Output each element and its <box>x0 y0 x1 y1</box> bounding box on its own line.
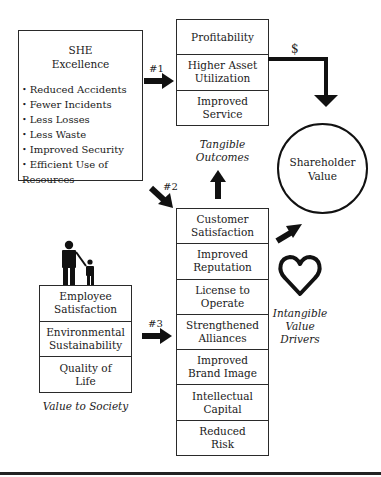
arrow-up-icon <box>210 170 226 199</box>
arrow-diagonal-down-right-icon <box>151 188 173 208</box>
arrow-diagonal-up-right-icon <box>277 224 302 241</box>
arrow-right-icon <box>144 73 174 89</box>
connector-layer <box>0 0 381 477</box>
arrow-right-icon <box>142 328 172 344</box>
heart-outline-icon <box>280 257 319 294</box>
dollar-flow-arrow-icon <box>268 59 338 107</box>
bottom-rule <box>0 472 381 475</box>
adult-and-child-icon <box>62 241 94 285</box>
